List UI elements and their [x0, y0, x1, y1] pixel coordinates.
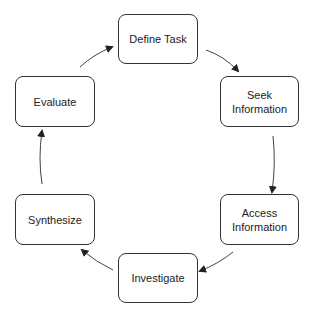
arrow-investigate-to-synthesize [82, 250, 113, 270]
node-label: Investigate [127, 271, 188, 285]
arrow-evaluate-to-define [80, 47, 112, 67]
node-label: Synthesize [24, 213, 86, 227]
arrow-access-to-investigate [200, 252, 233, 271]
node-synthesize: Synthesize [15, 194, 95, 245]
node-access-information: Access Information [220, 194, 299, 245]
node-define-task: Define Task [118, 14, 198, 64]
node-label: Access Information [223, 206, 297, 234]
node-label: Seek Information [226, 88, 294, 116]
node-seek-information: Seek Information [220, 76, 299, 127]
cycle-diagram: Define Task Seek Information Access Info… [0, 0, 312, 316]
node-evaluate: Evaluate [15, 76, 95, 127]
arrow-seek-to-access [272, 136, 274, 192]
arrow-define-to-seek [206, 50, 238, 71]
arrow-synthesize-to-evaluate [40, 131, 42, 184]
node-label: Evaluate [30, 95, 81, 109]
node-investigate: Investigate [118, 253, 198, 303]
node-label: Define Task [125, 32, 190, 46]
